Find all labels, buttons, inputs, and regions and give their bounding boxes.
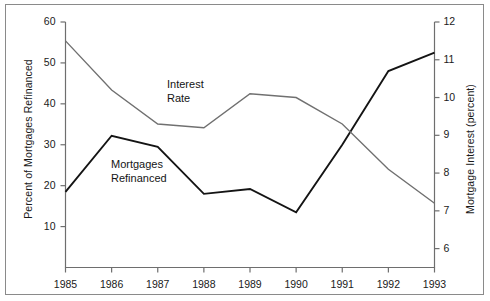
- x-tick-label: 1989: [228, 278, 272, 290]
- series-label-interest-rate-line2: Rate: [167, 92, 204, 106]
- x-tick-label: 1985: [44, 278, 88, 290]
- left-tick-label: 20: [30, 179, 56, 191]
- x-tick-label: 1986: [90, 278, 134, 290]
- left-tick-label: 50: [30, 56, 56, 68]
- x-tick-label: 1991: [320, 278, 364, 290]
- right-tick-label: 7: [444, 204, 470, 216]
- left-tick-label: 10: [30, 220, 56, 232]
- axis-lines: [66, 22, 435, 268]
- right-axis-ticks: [435, 22, 440, 249]
- x-tick-label: 1988: [182, 278, 226, 290]
- right-tick-label: 8: [444, 166, 470, 178]
- right-tick-label: 6: [444, 242, 470, 254]
- x-tick-label: 1992: [366, 278, 410, 290]
- series-label-interest-rate: Interest Rate: [167, 78, 204, 106]
- left-axis-ticks: [61, 22, 66, 227]
- series-line-mortgages-refinanced: [66, 53, 435, 213]
- x-tick-label: 1990: [274, 278, 318, 290]
- right-tick-label: 11: [444, 53, 470, 65]
- right-tick-label: 12: [444, 15, 470, 27]
- chart-plot-area: [0, 0, 490, 301]
- x-tick-label: 1993: [413, 278, 457, 290]
- series-label-mortgages-refinanced: Mortgages Refinanced: [111, 158, 167, 186]
- series-lines: [66, 41, 435, 212]
- left-tick-label: 40: [30, 97, 56, 109]
- right-tick-label: 9: [444, 128, 470, 140]
- series-label-interest-rate-line1: Interest: [167, 78, 204, 92]
- series-label-mortgages-refinanced-line1: Mortgages: [111, 158, 167, 172]
- series-label-mortgages-refinanced-line2: Refinanced: [111, 172, 167, 186]
- x-axis-ticks: [66, 268, 435, 273]
- x-tick-label: 1987: [136, 278, 180, 290]
- left-tick-label: 60: [30, 15, 56, 27]
- left-tick-label: 30: [30, 138, 56, 150]
- right-tick-label: 10: [444, 91, 470, 103]
- chart-figure: Percent of Mortgages Refinanced Mortgage…: [0, 0, 490, 301]
